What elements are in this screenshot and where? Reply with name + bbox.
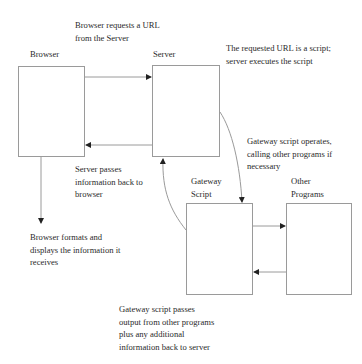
browser-label: Browser: [30, 48, 59, 61]
gateway-script-label: Gateway Script: [191, 175, 222, 200]
arrow-server-to-gateway: [220, 112, 242, 202]
annotation-gateway-passes: Gateway script passes output from other …: [119, 303, 214, 353]
annotation-request: Browser requests a URL from the Server: [75, 19, 160, 44]
annotation-server-passes: Server passes information back to browse…: [75, 163, 143, 201]
gateway-script-box: [186, 203, 253, 295]
server-label: Server: [153, 48, 175, 61]
annotation-executes: The requested URL is a script; server ex…: [226, 42, 331, 67]
browser-box: [18, 66, 85, 157]
annotation-operates: Gateway script operates, calling other p…: [247, 135, 332, 173]
arrow-gateway-to-server: [163, 159, 186, 230]
annotation-browser-displays: Browser formats and displays the informa…: [30, 231, 120, 269]
other-programs-label: Other Programs: [291, 175, 324, 200]
server-box: [152, 65, 220, 157]
other-programs-box: [286, 203, 352, 295]
